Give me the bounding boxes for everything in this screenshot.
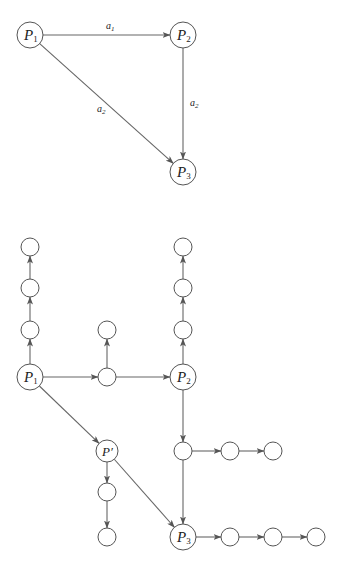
node-Q1 — [98, 483, 116, 501]
node-R3 — [174, 238, 192, 256]
node-D1 — [221, 528, 239, 546]
node-label: P′ — [101, 444, 113, 459]
node-P3: P3 — [170, 159, 196, 185]
node-L2 — [21, 279, 39, 297]
node-Pp: P′ — [96, 440, 118, 462]
node-P2: P2 — [170, 364, 196, 390]
edge-label: a2 — [97, 103, 106, 116]
top-graph: a1a2a2P1P2P3 — [17, 20, 199, 185]
bottom-graph: P1P2P′P3 — [17, 238, 325, 550]
node-L1 — [21, 321, 39, 339]
node-P1: P1 — [17, 364, 43, 390]
node-C1 — [221, 442, 239, 460]
node-P2: P2 — [170, 22, 196, 48]
node-M0 — [98, 368, 116, 386]
diagram-canvas: a1a2a2P1P2P3 P1P2P′P3 — [0, 0, 346, 565]
node-P1: P1 — [17, 22, 43, 48]
edge-label: a1 — [106, 20, 115, 33]
edge-P1-Pp — [39, 386, 99, 443]
node-M1 — [98, 321, 116, 339]
node-R2 — [174, 279, 192, 297]
node-R1 — [174, 321, 192, 339]
node-L3 — [21, 238, 39, 256]
node-D3 — [307, 528, 325, 546]
node-P3: P3 — [170, 524, 196, 550]
node-D2 — [264, 528, 282, 546]
node-C0 — [174, 442, 192, 460]
node-Q2 — [98, 528, 116, 546]
edge-label: a2 — [190, 97, 199, 110]
node-C2 — [264, 442, 282, 460]
edge-P1-P3 — [40, 44, 174, 164]
edge-Pp-P3 — [114, 459, 174, 527]
